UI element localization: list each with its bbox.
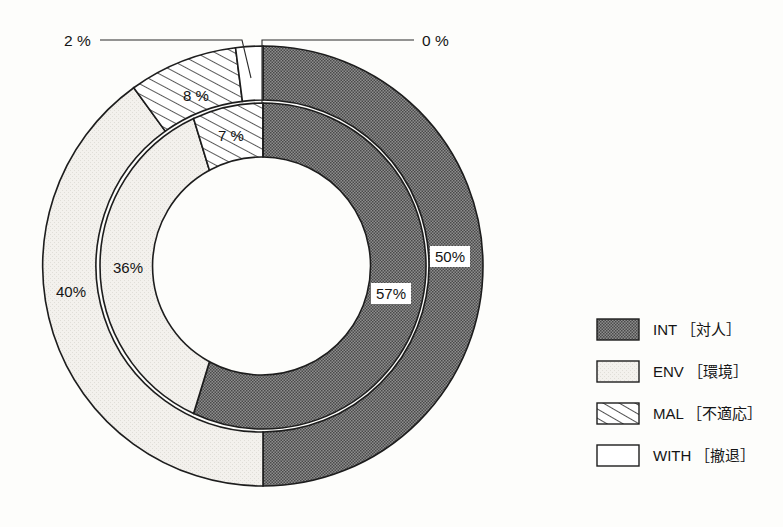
label-inner-int: 57%: [376, 285, 406, 302]
legend-label-with: WITH ［撤退］: [653, 447, 756, 464]
legend-item-env[interactable]: ENV ［環境］: [597, 361, 748, 382]
donut-chart-figure: 2 % 0 % 8 % 7 % 50% 57% 40% 36% INT ［対人］…: [0, 0, 783, 527]
nested-donut-chart: 2 % 0 % 8 % 7 % 50% 57% 40% 36% INT ［対人］…: [0, 0, 783, 527]
label-inner-with: 0 %: [422, 32, 449, 49]
legend-swatch-env: [597, 361, 639, 382]
label-inner-env: 36%: [113, 259, 143, 276]
label-inner-mal: 7 %: [218, 127, 244, 144]
legend-label-env: ENV ［環境］: [653, 363, 748, 380]
legend-label-mal: MAL ［不適応］: [653, 405, 762, 422]
legend-swatch-int: [597, 319, 639, 340]
inner-ring-group: [100, 103, 426, 429]
legend-swatch-mal: [597, 403, 639, 424]
label-outer-int: 50%: [435, 248, 465, 265]
legend-item-int[interactable]: INT ［対人］: [597, 319, 741, 340]
label-outer-with: 2 %: [64, 32, 91, 49]
legend-swatch-with: [597, 445, 639, 466]
legend-item-with[interactable]: WITH ［撤退］: [597, 445, 756, 466]
legend-label-int: INT ［対人］: [653, 321, 741, 338]
label-outer-env: 40%: [56, 283, 86, 300]
legend-item-mal[interactable]: MAL ［不適応］: [597, 403, 762, 424]
label-outer-mal: 8 %: [183, 87, 209, 104]
legend: INT ［対人］ ENV ［環境］ MAL ［不適応］ WITH ［撤退］: [597, 319, 762, 466]
